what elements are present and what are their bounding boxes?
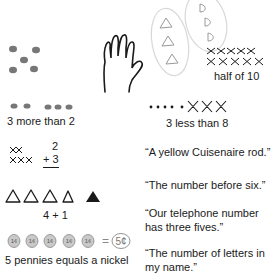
triangles-group (5, 188, 105, 204)
crossed-dots-icon (148, 100, 248, 114)
triangles-icon (5, 188, 105, 204)
addition-marks (8, 145, 38, 167)
five-dots-group (0, 40, 45, 80)
pennies-caption: 5 pennies equals a nickel (5, 254, 129, 267)
svg-text:5¢: 5¢ (115, 236, 126, 247)
dots-icon (8, 100, 73, 112)
addition-bottom: + 3 (43, 153, 59, 168)
x-marks-icon (205, 46, 273, 68)
svg-text:1¢: 1¢ (85, 238, 92, 244)
svg-text:=: = (102, 234, 109, 248)
dots-icon (0, 40, 45, 80)
less-than-marks (148, 100, 248, 114)
pennies-group: 1¢1¢1¢1¢1¢ = 5¢ (7, 232, 132, 250)
svg-text:1¢: 1¢ (66, 238, 73, 244)
more-than-caption: 3 more than 2 (7, 115, 75, 128)
svg-text:1¢: 1¢ (11, 238, 18, 244)
coins-icon: 1¢1¢1¢1¢1¢ = 5¢ (7, 232, 132, 250)
quote-telephone: “Our telephone number has three fives.” (145, 206, 273, 234)
more-than-dots (8, 100, 73, 112)
half-of-ten-caption: half of 10 (214, 70, 259, 83)
less-than-caption: 3 less than 8 (166, 117, 228, 130)
quote-before-six: “The number before six.” (145, 178, 273, 192)
half-of-ten-marks (205, 46, 273, 68)
x-marks-icon (8, 145, 38, 167)
svg-text:1¢: 1¢ (29, 238, 36, 244)
quote-letters-name: “The number of letters in my name.” (145, 246, 265, 274)
quote-yellow-rod: “A yellow Cuisenaire rod.” (145, 145, 273, 159)
svg-text:1¢: 1¢ (47, 238, 54, 244)
addition-top: 2 (52, 140, 58, 153)
triangles-caption: 4 + 1 (43, 209, 68, 222)
